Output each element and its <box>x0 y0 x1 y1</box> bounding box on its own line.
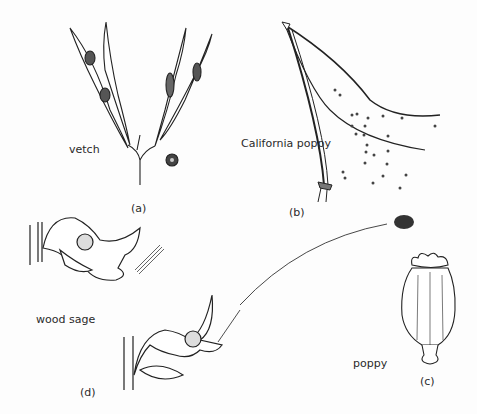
vetch-drawing <box>70 22 212 185</box>
caption-b: (b) <box>289 206 305 219</box>
poppy-capsule-drawing <box>402 253 455 364</box>
label-wood-sage: wood sage <box>36 313 95 326</box>
california-poppy-drawing <box>282 22 440 202</box>
caption-d: (d) <box>80 386 96 399</box>
seed-dispersal-figure: vetch (a) California poppy (b) wood sage… <box>0 0 477 414</box>
label-california-poppy: California poppy <box>241 137 331 150</box>
wood-sage-flower-lower <box>124 295 240 390</box>
label-vetch: vetch <box>69 143 100 156</box>
caption-c: (c) <box>420 375 435 388</box>
seed-trajectory <box>240 224 387 305</box>
label-poppy: poppy <box>353 357 387 370</box>
illustration <box>0 0 477 414</box>
wood-sage-flower-upper <box>30 218 164 281</box>
poppy-seed <box>394 215 414 229</box>
caption-a: (a) <box>131 202 146 215</box>
